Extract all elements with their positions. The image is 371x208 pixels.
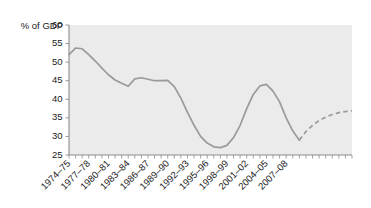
chart-container: 2530354045505560 1974–751977–781980–8119… (0, 0, 371, 208)
y-tick-label: 45 (52, 74, 63, 85)
plot-background (69, 25, 352, 155)
y-axis-tick-labels: 2530354045505560 (52, 19, 63, 160)
y-axis-title: % of GDP (21, 20, 63, 31)
y-tick-label: 30 (52, 130, 63, 141)
y-tick-label: 50 (52, 56, 63, 67)
y-tick-label: 35 (52, 111, 63, 122)
y-tick-label: 55 (52, 37, 63, 48)
y-tick-label: 40 (52, 93, 63, 104)
x-axis-tick-labels: 1974–751977–781980–811983–841986–871989–… (38, 158, 289, 192)
y-tick-label: 25 (52, 149, 63, 160)
line-chart: 2530354045505560 1974–751977–781980–8119… (0, 0, 371, 208)
